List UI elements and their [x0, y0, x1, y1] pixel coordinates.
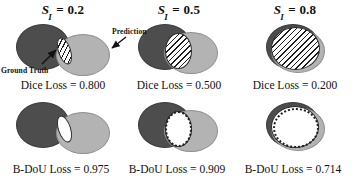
bdou-loss-2: B-DoU Loss = 0.909 — [118, 163, 236, 175]
venn-panel-dice-3 — [236, 22, 354, 74]
header-value: = 0.8 — [288, 2, 316, 17]
ground-truth-annotation-label: Ground Truth — [1, 66, 48, 75]
subscript-i: I — [280, 12, 284, 22]
venn-panel-bdou-2 — [120, 100, 238, 152]
bdou-loss-1: B-DoU Loss = 0.975 — [2, 163, 120, 175]
figure-root: SI = 0.2 SI = 0.5 SI = 0.8 Dice Loss = 0… — [0, 0, 358, 186]
venn-panel-bdou-1 — [4, 100, 122, 152]
prediction-annotation-label: Prediction — [112, 27, 147, 36]
dice-loss-2: Dice Loss = 0.500 — [120, 79, 238, 91]
boundary-ring — [165, 111, 192, 147]
boundary-ring — [273, 108, 319, 148]
column-header-3: SI = 0.8 — [236, 2, 354, 20]
header-value: = 0.2 — [56, 2, 84, 17]
overlap-region — [271, 27, 320, 70]
subscript-i: I — [48, 12, 52, 22]
column-header-2: SI = 0.5 — [120, 2, 238, 20]
bdou-loss-3: B-DoU Loss = 0.714 — [234, 163, 352, 175]
overlap-region — [165, 33, 192, 69]
dice-loss-1: Dice Loss = 0.800 — [4, 79, 122, 91]
column-header-1: SI = 0.2 — [4, 2, 122, 20]
subscript-i: I — [164, 12, 168, 22]
dice-loss-3: Dice Loss = 0.200 — [236, 79, 354, 91]
header-value: = 0.5 — [172, 2, 200, 17]
venn-panel-bdou-3 — [236, 100, 354, 152]
